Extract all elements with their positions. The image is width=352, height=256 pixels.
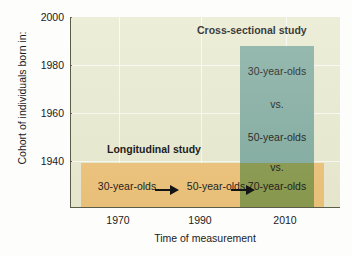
y-tick-1940 <box>70 161 72 162</box>
arrow-right-icon-2 <box>231 185 257 195</box>
cross-age-label-50: 50-year-olds <box>234 131 320 143</box>
cross-sectional-study-header: Cross-sectional study <box>197 24 307 36</box>
y-tick-1980 <box>70 65 72 66</box>
x-tick-label-2010: 2010 <box>262 214 308 226</box>
x-tick-2010 <box>286 207 287 208</box>
study-design-figure: 2000 1980 1960 1940 Cohort of individual… <box>0 0 352 256</box>
y-tick-2000 <box>70 17 72 18</box>
y-tick-label-1980: 1980 <box>30 59 64 71</box>
arrow-right-icon-1 <box>155 185 181 195</box>
cross-vs-label-2: vs. <box>234 161 320 173</box>
y-tick-label-2000: 2000 <box>30 11 64 23</box>
x-axis-title: Time of measurement <box>70 232 340 244</box>
x-tick-label-1990: 1990 <box>177 214 223 226</box>
y-tick-label-1940: 1940 <box>30 155 64 167</box>
longitudinal-study-header: Longitudinal study <box>107 143 201 155</box>
y-axis-title: Cohort of individuals born in: <box>16 0 28 198</box>
cross-vs-label-1: vs. <box>234 98 320 110</box>
cross-age-label-30: 30-year-olds <box>234 65 320 77</box>
x-tick-label-1970: 1970 <box>95 214 141 226</box>
y-tick-1960 <box>70 113 72 114</box>
plot-area: Cross-sectional study Longitudinal study… <box>70 17 340 208</box>
x-tick-1970 <box>119 207 120 208</box>
x-tick-1990 <box>201 207 202 208</box>
y-tick-label-1960: 1960 <box>30 107 64 119</box>
